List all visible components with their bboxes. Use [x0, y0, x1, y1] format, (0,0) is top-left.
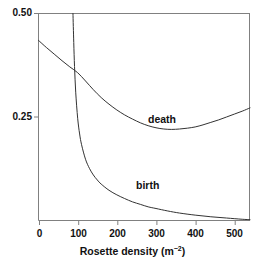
chart-figure: 0.50 0.25 0 100 200 300 400 500 death bi… — [0, 0, 265, 271]
x-tick-label-100: 100 — [61, 228, 96, 239]
x-axis-title: Rosette density (m−2) — [0, 245, 265, 257]
x-axis-title-exponent: −2 — [174, 245, 182, 252]
series-annotation-death: death — [148, 113, 176, 125]
series-annotation-birth: birth — [136, 179, 159, 191]
x-axis-title-main: Rosette density (m — [80, 245, 174, 257]
y-tick-label-050: 0.50 — [0, 7, 32, 18]
x-tick-label-200: 200 — [100, 228, 135, 239]
x-tick-label-0: 0 — [22, 228, 57, 239]
x-tick-label-500: 500 — [217, 228, 252, 239]
y-tick-label-025: 0.25 — [0, 111, 32, 122]
x-tick-label-400: 400 — [178, 228, 213, 239]
x-axis-ticks — [40, 221, 236, 226]
y-axis-ticks — [34, 14, 39, 118]
series-line-death — [39, 40, 251, 129]
x-axis-title-tail: ) — [182, 245, 186, 257]
x-tick-label-300: 300 — [139, 228, 174, 239]
